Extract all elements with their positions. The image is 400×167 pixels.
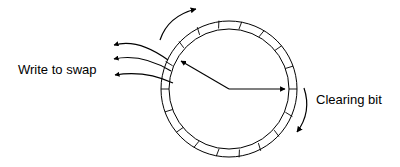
clock-hands bbox=[181, 61, 285, 89]
ring-divider bbox=[194, 141, 199, 147]
ring-divider bbox=[166, 61, 173, 65]
ring-divider bbox=[239, 22, 242, 29]
ring-divider bbox=[179, 41, 184, 47]
write-to-swap-arc bbox=[115, 74, 173, 83]
right-rotation-arc bbox=[297, 88, 307, 132]
ring-divider bbox=[176, 128, 183, 133]
write-to-swap-arrows bbox=[114, 43, 173, 83]
write-to-swap-arc bbox=[114, 58, 171, 72]
ring-divider bbox=[285, 112, 292, 116]
ring-divider bbox=[259, 31, 264, 37]
right-rotation-arrow bbox=[297, 88, 307, 132]
ring-divider bbox=[274, 130, 279, 136]
ring-divider bbox=[216, 149, 219, 156]
write-to-swap-hand bbox=[181, 61, 229, 89]
top-rotation-arc bbox=[160, 9, 196, 40]
top-rotation-arrow bbox=[160, 9, 196, 40]
write-to-swap-label: Write to swap bbox=[18, 62, 97, 77]
ring-divider bbox=[275, 46, 282, 51]
clock-diagram-canvas: Write to swap Clearing bit bbox=[0, 0, 400, 167]
ring-divider bbox=[165, 110, 173, 112]
ring-divider bbox=[285, 66, 293, 68]
clock-algorithm-diagram: Write to swap Clearing bit bbox=[0, 0, 400, 167]
clearing-bit-label: Clearing bit bbox=[316, 92, 382, 107]
